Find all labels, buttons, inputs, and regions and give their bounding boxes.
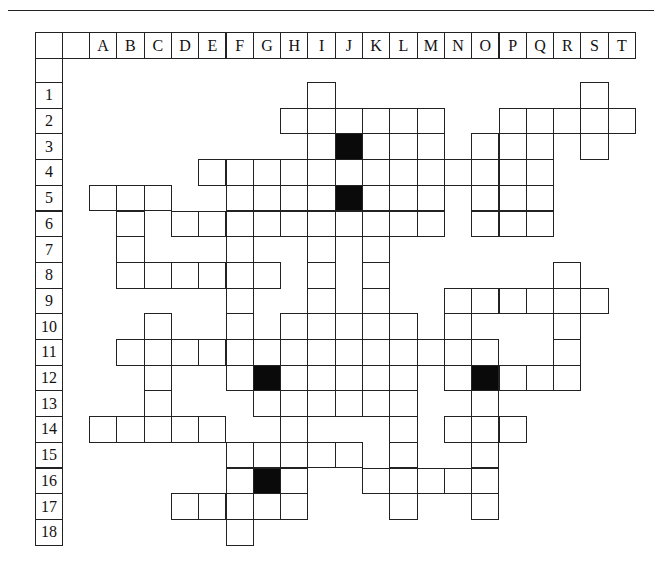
crossword-cell-o3[interactable] bbox=[471, 133, 499, 160]
crossword-cell-l13[interactable] bbox=[389, 390, 417, 417]
crossword-cell-m4[interactable] bbox=[417, 159, 445, 186]
crossword-cell-i7[interactable] bbox=[307, 236, 335, 263]
crossword-cell-n12[interactable] bbox=[444, 365, 472, 392]
crossword-cell-i2[interactable] bbox=[307, 108, 335, 135]
crossword-cell-i5[interactable] bbox=[307, 185, 335, 212]
crossword-cell-b14[interactable] bbox=[116, 416, 144, 443]
crossword-cell-l10[interactable] bbox=[389, 313, 417, 340]
crossword-cell-i1[interactable] bbox=[307, 82, 335, 109]
crossword-cell-b11[interactable] bbox=[116, 339, 144, 366]
crossword-cell-i12[interactable] bbox=[307, 365, 335, 392]
crossword-cell-f9[interactable] bbox=[226, 288, 254, 315]
crossword-cell-j4[interactable] bbox=[335, 159, 363, 186]
crossword-cell-j11[interactable] bbox=[335, 339, 363, 366]
crossword-cell-j15[interactable] bbox=[335, 442, 363, 469]
crossword-cell-j2[interactable] bbox=[335, 108, 363, 135]
crossword-cell-o13[interactable] bbox=[471, 390, 499, 417]
crossword-cell-b5[interactable] bbox=[116, 185, 144, 212]
crossword-cell-p5[interactable] bbox=[499, 185, 527, 212]
crossword-cell-p12[interactable] bbox=[499, 365, 527, 392]
crossword-cell-o17[interactable] bbox=[471, 493, 499, 520]
crossword-cell-p3[interactable] bbox=[499, 133, 527, 160]
crossword-cell-s9[interactable] bbox=[580, 288, 608, 315]
crossword-cell-k11[interactable] bbox=[362, 339, 390, 366]
crossword-cell-s2[interactable] bbox=[580, 108, 608, 135]
crossword-cell-h5[interactable] bbox=[280, 185, 308, 212]
crossword-cell-l15[interactable] bbox=[389, 442, 417, 469]
crossword-cell-o6[interactable] bbox=[471, 211, 499, 238]
crossword-cell-i6[interactable] bbox=[307, 211, 335, 238]
crossword-cell-j10[interactable] bbox=[335, 313, 363, 340]
crossword-cell-f15[interactable] bbox=[226, 442, 254, 469]
crossword-cell-p14[interactable] bbox=[499, 416, 527, 443]
crossword-cell-l6[interactable] bbox=[389, 211, 417, 238]
crossword-cell-i9[interactable] bbox=[307, 288, 335, 315]
crossword-cell-k9[interactable] bbox=[362, 288, 390, 315]
crossword-cell-i3[interactable] bbox=[307, 133, 335, 160]
crossword-cell-k3[interactable] bbox=[362, 133, 390, 160]
crossword-cell-j13[interactable] bbox=[335, 390, 363, 417]
crossword-cell-f11[interactable] bbox=[226, 339, 254, 366]
crossword-cell-h15[interactable] bbox=[280, 442, 308, 469]
crossword-cell-l3[interactable] bbox=[389, 133, 417, 160]
crossword-cell-l11[interactable] bbox=[389, 339, 417, 366]
crossword-cell-k2[interactable] bbox=[362, 108, 390, 135]
crossword-cell-c10[interactable] bbox=[144, 313, 172, 340]
crossword-cell-l17[interactable] bbox=[389, 493, 417, 520]
crossword-cell-e17[interactable] bbox=[198, 493, 226, 520]
crossword-cell-s1[interactable] bbox=[580, 82, 608, 109]
crossword-cell-r12[interactable] bbox=[553, 365, 581, 392]
crossword-cell-o16[interactable] bbox=[471, 468, 499, 495]
crossword-cell-c12[interactable] bbox=[144, 365, 172, 392]
crossword-cell-h11[interactable] bbox=[280, 339, 308, 366]
crossword-cell-i10[interactable] bbox=[307, 313, 335, 340]
crossword-cell-m3[interactable] bbox=[417, 133, 445, 160]
crossword-cell-l16[interactable] bbox=[389, 468, 417, 495]
crossword-cell-n9[interactable] bbox=[444, 288, 472, 315]
crossword-cell-k4[interactable] bbox=[362, 159, 390, 186]
crossword-cell-k6[interactable] bbox=[362, 211, 390, 238]
crossword-cell-c8[interactable] bbox=[144, 262, 172, 289]
crossword-cell-l5[interactable] bbox=[389, 185, 417, 212]
crossword-cell-p4[interactable] bbox=[499, 159, 527, 186]
crossword-cell-r9[interactable] bbox=[553, 288, 581, 315]
crossword-cell-n16[interactable] bbox=[444, 468, 472, 495]
crossword-cell-h13[interactable] bbox=[280, 390, 308, 417]
crossword-cell-k5[interactable] bbox=[362, 185, 390, 212]
crossword-cell-g5[interactable] bbox=[253, 185, 281, 212]
crossword-cell-a5[interactable] bbox=[89, 185, 117, 212]
crossword-cell-o11[interactable] bbox=[471, 339, 499, 366]
crossword-cell-k16[interactable] bbox=[362, 468, 390, 495]
crossword-cell-r10[interactable] bbox=[553, 313, 581, 340]
crossword-cell-k12[interactable] bbox=[362, 365, 390, 392]
crossword-cell-q4[interactable] bbox=[526, 159, 554, 186]
crossword-cell-e4[interactable] bbox=[198, 159, 226, 186]
crossword-cell-d17[interactable] bbox=[171, 493, 199, 520]
crossword-cell-g15[interactable] bbox=[253, 442, 281, 469]
crossword-cell-l4[interactable] bbox=[389, 159, 417, 186]
crossword-cell-f17[interactable] bbox=[226, 493, 254, 520]
crossword-cell-q12[interactable] bbox=[526, 365, 554, 392]
crossword-cell-i13[interactable] bbox=[307, 390, 335, 417]
crossword-cell-l2[interactable] bbox=[389, 108, 417, 135]
crossword-cell-f12[interactable] bbox=[226, 365, 254, 392]
crossword-cell-o9[interactable] bbox=[471, 288, 499, 315]
crossword-cell-q9[interactable] bbox=[526, 288, 554, 315]
crossword-cell-h14[interactable] bbox=[280, 416, 308, 443]
crossword-cell-t2[interactable] bbox=[608, 108, 636, 135]
crossword-cell-b8[interactable] bbox=[116, 262, 144, 289]
crossword-cell-m11[interactable] bbox=[417, 339, 445, 366]
crossword-cell-e11[interactable] bbox=[198, 339, 226, 366]
crossword-cell-r11[interactable] bbox=[553, 339, 581, 366]
crossword-cell-d6[interactable] bbox=[171, 211, 199, 238]
crossword-cell-g4[interactable] bbox=[253, 159, 281, 186]
crossword-cell-k10[interactable] bbox=[362, 313, 390, 340]
crossword-cell-p9[interactable] bbox=[499, 288, 527, 315]
crossword-cell-k8[interactable] bbox=[362, 262, 390, 289]
crossword-cell-f6[interactable] bbox=[226, 211, 254, 238]
crossword-cell-p6[interactable] bbox=[499, 211, 527, 238]
crossword-cell-m5[interactable] bbox=[417, 185, 445, 212]
crossword-cell-n14[interactable] bbox=[444, 416, 472, 443]
crossword-cell-n10[interactable] bbox=[444, 313, 472, 340]
crossword-cell-b6[interactable] bbox=[116, 211, 144, 238]
